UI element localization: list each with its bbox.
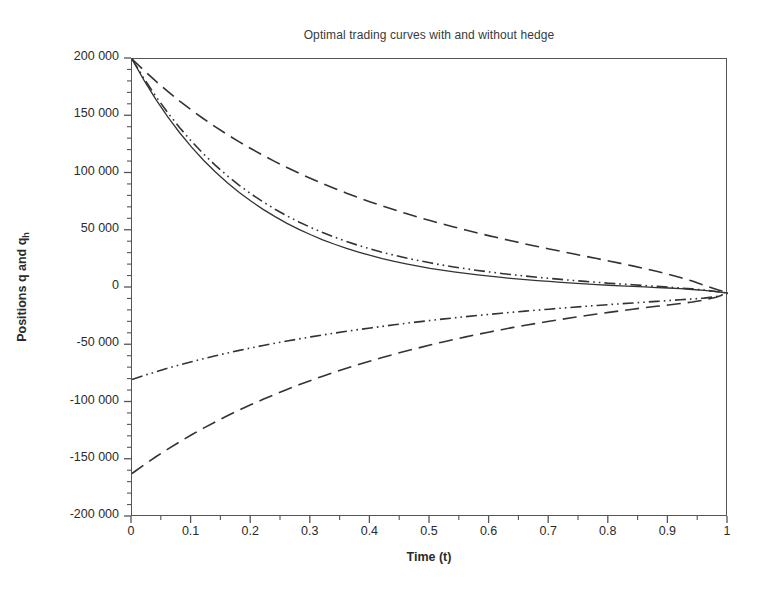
y-tick-label-text: 200 000 — [74, 49, 119, 63]
x-tick-label: 0.2 — [241, 524, 258, 538]
x-tick-label: 0.3 — [301, 524, 318, 538]
y-tick-label-text: 100 000 — [74, 164, 119, 178]
x-tick-label: 0 — [128, 524, 135, 538]
y-tick-label-text: -50 000 — [77, 335, 119, 349]
x-tick-label: 0.7 — [539, 524, 556, 538]
y-tick-label-text: -200 000 — [70, 507, 119, 521]
y-tick-label-text: -100 000 — [70, 393, 119, 407]
y-tick-label-text: 50 000 — [81, 221, 119, 235]
y-tick-label-text: 0 — [112, 278, 119, 292]
x-tick-label: 0.5 — [420, 524, 437, 538]
x-tick-label: 0.9 — [659, 524, 676, 538]
x-tick-label: 0.4 — [361, 524, 378, 538]
y-axis-title: Positions q and qh — [15, 232, 29, 342]
y-axis-title-subscript: h — [21, 232, 31, 238]
y-tick-label-text: -150 000 — [70, 450, 119, 464]
y-tick-label-text: 150 000 — [74, 106, 119, 120]
x-tick-label: 0.1 — [182, 524, 199, 538]
x-tick-label: 1 — [724, 524, 731, 538]
x-tick-label: 0.6 — [480, 524, 497, 538]
y-axis-title-text: Positions q and q — [15, 238, 29, 342]
x-axis-title: Time (t) — [131, 550, 727, 564]
chart-figure: Optimal trading curves with and without … — [0, 0, 773, 594]
x-tick-label: 0.8 — [599, 524, 616, 538]
y-axis-tick-labels: 200 000150 000100 00050 0000-50 000-100 … — [0, 0, 773, 594]
